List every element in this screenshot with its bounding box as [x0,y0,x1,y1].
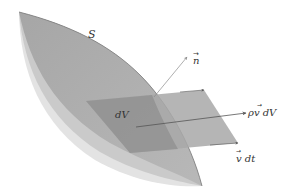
flux-diagram: S n → dV ρv dV → v dt → [0,0,305,192]
normal-vector-hat: → [193,50,199,58]
label-displacement: v dt [236,153,256,164]
normal-arrow [154,57,187,97]
displacement-vector-hat: → [236,147,241,154]
flux-vector-hat: → [257,101,262,108]
label-flux: ρv dV [247,107,278,118]
label-surface: S [88,28,96,41]
label-volume-element: dV [115,109,130,120]
